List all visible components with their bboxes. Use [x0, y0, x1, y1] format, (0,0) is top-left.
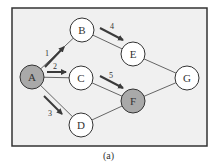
- node-label: F: [130, 95, 136, 107]
- node-label: B: [78, 24, 85, 36]
- arrow-step-label: 2: [53, 62, 57, 71]
- graph-diagram: 12345 ABCDEFG (a): [0, 0, 217, 167]
- figure-caption: (a): [0, 150, 217, 161]
- node-label: G: [183, 72, 191, 84]
- node-e: E: [121, 42, 145, 66]
- arrow-step-label: 4: [110, 22, 114, 31]
- node-f: F: [121, 89, 145, 113]
- node-a: A: [20, 65, 44, 89]
- arrow-step-label: 1: [45, 49, 49, 58]
- node-label: D: [77, 119, 85, 131]
- graph-canvas: 12345 ABCDEFG: [0, 0, 217, 167]
- node-label: A: [28, 71, 36, 83]
- node-g: G: [175, 66, 199, 90]
- node-b: B: [70, 18, 94, 42]
- arrow-step-label: 3: [48, 109, 52, 118]
- arrow-step-label: 5: [109, 71, 113, 80]
- node-d: D: [69, 113, 93, 137]
- node-label: C: [77, 72, 84, 84]
- node-c: C: [69, 66, 93, 90]
- node-label: E: [130, 48, 137, 60]
